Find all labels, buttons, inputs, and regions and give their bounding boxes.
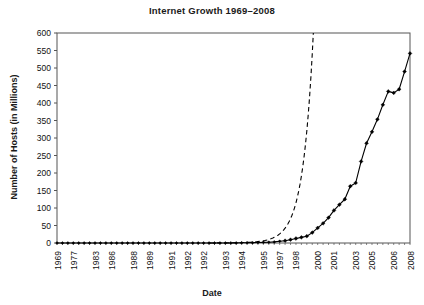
y-tick-label: 550 (37, 46, 51, 56)
data-point-markers (56, 52, 412, 245)
x-tick-label: 1997 (275, 251, 285, 270)
plot-area: 050100150200250300350400450500550600 196… (0, 0, 424, 305)
chart-canvas: 050100150200250300350400450500550600 196… (0, 0, 424, 305)
y-tick-label: 0 (46, 238, 51, 248)
data-series-line (57, 53, 410, 243)
x-tick-label: 2005 (367, 251, 377, 270)
x-tick-label: 2008 (406, 251, 416, 270)
axes-group (57, 33, 410, 243)
x-tick-label: 1983 (91, 251, 101, 270)
x-tick-label: 1998 (291, 251, 301, 270)
y-tick-label: 600 (37, 28, 51, 38)
x-tick-group: 1969197719831986198819891991199219921993… (53, 243, 416, 270)
x-tick-label: 1969 (53, 251, 63, 270)
x-tick-label: 1994 (237, 251, 247, 270)
x-tick-label: 2001 (329, 251, 339, 270)
y-tick-label: 200 (37, 168, 51, 178)
x-tick-label: 2006 (389, 251, 399, 270)
x-tick-label: 1995 (259, 251, 269, 270)
x-tick-label: 1991 (167, 251, 177, 270)
x-tick-label: 1977 (69, 251, 79, 270)
chart-root: Internet Growth 1969–2008 Number of Host… (0, 0, 424, 305)
x-tick-label: 1986 (107, 251, 117, 270)
y-tick-label: 300 (37, 133, 51, 143)
y-tick-label: 350 (37, 116, 51, 126)
x-tick-label: 1992 (199, 251, 209, 270)
y-tick-label: 100 (37, 203, 51, 213)
x-tick-label: 2000 (313, 251, 323, 270)
x-tick-label: 1989 (145, 251, 155, 270)
y-tick-label: 250 (37, 151, 51, 161)
x-tick-label: 2003 (351, 251, 361, 270)
trend-line-dashed (209, 33, 313, 243)
y-tick-group: 050100150200250300350400450500550600 (37, 28, 57, 248)
y-tick-label: 500 (37, 63, 51, 73)
x-tick-label: 1988 (129, 251, 139, 270)
y-tick-label: 150 (37, 186, 51, 196)
y-tick-label: 400 (37, 98, 51, 108)
x-tick-label: 1993 (221, 251, 231, 270)
y-tick-label: 50 (42, 221, 52, 231)
x-tick-label: 1992 (183, 251, 193, 270)
y-tick-label: 450 (37, 81, 51, 91)
